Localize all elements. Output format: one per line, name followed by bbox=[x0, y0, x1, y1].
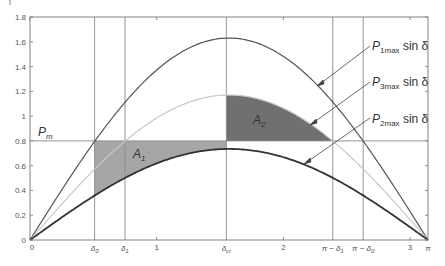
y-tick-label: 0.8 bbox=[15, 137, 27, 146]
annotations: Pm A1 A2 P1max sin δ P3max sin δ P2max s… bbox=[10, 0, 429, 164]
x-tick-label: 2 bbox=[281, 243, 286, 252]
y-tick-label: 1.8 bbox=[15, 13, 27, 22]
shaded-areas bbox=[95, 95, 333, 195]
y-tick-label: 0.4 bbox=[15, 186, 27, 195]
p1-curve-label: P1max sin δ bbox=[372, 39, 429, 55]
y-tick-label: 0.6 bbox=[15, 162, 27, 171]
pm-label: Pm bbox=[38, 125, 53, 141]
arrow-head-icon bbox=[310, 119, 317, 125]
axis-ticks: 00.20.40.60.811.21.41.61.80123δ0δ1δcrπ −… bbox=[15, 13, 431, 254]
p3-curve-label: P3max sin δ bbox=[372, 75, 429, 91]
leader-arrows bbox=[304, 46, 370, 164]
y-tick-label: 1.2 bbox=[15, 87, 27, 96]
x-tick-label: 3 bbox=[408, 243, 413, 252]
p2-curve-label: P2max sin δ bbox=[372, 112, 429, 128]
x-special-label: δcr bbox=[222, 244, 232, 254]
curve-p2max bbox=[30, 149, 428, 240]
y-tick-label: 1.6 bbox=[15, 38, 27, 47]
x-special-label: π bbox=[425, 244, 431, 253]
area-a2 bbox=[226, 95, 332, 141]
y-tick-label: 1 bbox=[22, 112, 27, 121]
y-tick-label: 1.4 bbox=[15, 63, 27, 72]
x-special-label: δ1 bbox=[121, 244, 129, 254]
y-tick-label: 0.2 bbox=[15, 211, 27, 220]
p1-leader-line bbox=[320, 46, 370, 84]
p3-leader-line bbox=[313, 82, 370, 123]
y-tick-label: 0 bbox=[22, 236, 27, 245]
x-tick-label: 0 bbox=[30, 243, 35, 252]
x-special-label: δ0 bbox=[91, 244, 99, 254]
x-tick-label: 1 bbox=[154, 243, 159, 252]
x-special-label: π − δ1 bbox=[322, 244, 344, 254]
power-angle-chart: 00.20.40.60.811.21.41.61.80123δ0δ1δcrπ −… bbox=[0, 0, 445, 266]
arrow-head-icon bbox=[304, 158, 311, 164]
area-a1 bbox=[95, 141, 227, 196]
x-special-label: π − δ0 bbox=[352, 244, 375, 254]
arrow-head-icon bbox=[317, 80, 324, 86]
